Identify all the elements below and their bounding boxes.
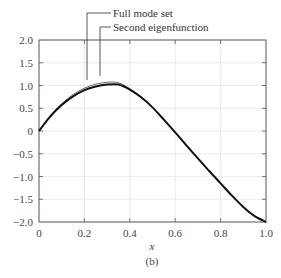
y-tick-label: −1.0 — [13, 171, 33, 183]
y-tick-label: 1.0 — [19, 80, 33, 92]
legend-label-full-mode-set: Full mode set — [113, 7, 173, 19]
figure-caption: (b) — [146, 255, 159, 268]
legend-leader-second-eigenfunction — [100, 27, 111, 76]
x-tick-label: 0 — [36, 227, 42, 239]
x-tick-label: 0.4 — [123, 227, 137, 239]
x-tick-label: 0.2 — [78, 227, 92, 239]
y-tick-label: −1.5 — [13, 193, 33, 205]
y-tick-label: 0.5 — [19, 102, 33, 114]
plot-curves — [39, 82, 266, 222]
y-tick-label: 0 — [28, 125, 34, 137]
legend: Full mode set Second eigenfunction — [87, 7, 209, 80]
y-tick-label: −0.5 — [13, 148, 33, 160]
chart: 2.01.51.00.50−0.5−1.0−1.5−2.0 00.20.40.6… — [0, 0, 281, 278]
y-tick-label: 1.5 — [19, 57, 33, 69]
curve-second-eigenfunction — [39, 84, 266, 222]
legend-leader-full-mode-set — [87, 13, 111, 80]
y-tick-labels: 2.01.51.00.50−0.5−1.0−1.5−2.0 — [13, 34, 33, 228]
y-tick-label: −2.0 — [13, 216, 33, 228]
legend-label-second-eigenfunction: Second eigenfunction — [113, 21, 209, 33]
curve-full-mode-set — [39, 82, 266, 222]
y-tick-label: 2.0 — [19, 34, 33, 46]
x-tick-labels: 00.20.40.60.81.0 — [36, 227, 273, 239]
x-tick-label: 1.0 — [259, 227, 273, 239]
x-tick-label: 0.8 — [214, 227, 228, 239]
x-tick-label: 0.6 — [168, 227, 182, 239]
x-axis-label: x — [149, 240, 155, 252]
